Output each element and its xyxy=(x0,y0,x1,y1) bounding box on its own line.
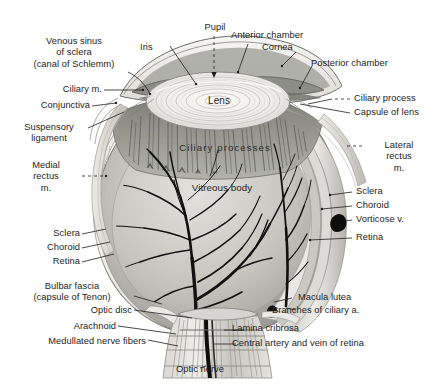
label-bulbar-fascia: Bulbar fascia (capsule of Tenon) xyxy=(10,281,134,304)
label-suspensory-ligament: Suspensory ligament xyxy=(12,122,86,145)
label-venous-sinus-of-sclera: Venous sinus of sclera (canal of Schlemm… xyxy=(14,36,134,70)
label-medial-rectus-muscle: Medial rectus m. xyxy=(14,160,78,194)
label-ciliary-processes: Ciliary processes xyxy=(160,142,290,153)
label-capsule-of-lens: Capsule of lens xyxy=(354,107,419,118)
label-retina-right: Retina xyxy=(356,232,383,243)
label-vorticose-vein: Vorticose v. xyxy=(356,214,404,225)
label-lateral-rectus-muscle: Lateral rectus m. xyxy=(368,140,430,174)
label-macula-lutea: Macula lutea xyxy=(298,292,351,303)
label-posterior-chamber: Posterior chamber xyxy=(311,58,388,69)
label-sclera-left: Sclera xyxy=(20,228,80,239)
label-choroid-right: Choroid xyxy=(356,200,389,211)
label-conjunctiva: Conjunctiva xyxy=(10,100,90,111)
label-sclera-right: Sclera xyxy=(356,186,383,197)
label-choroid-left: Choroid xyxy=(20,242,80,253)
label-ciliary-process: Ciliary process xyxy=(354,93,416,104)
label-optic-nerve: Optic nerve xyxy=(150,364,250,375)
label-medullated-nerve-fibers: Medullated nerve fibers xyxy=(8,336,146,347)
label-iris: Iris xyxy=(140,42,153,53)
label-branches-of-ciliary-artery: Branches of ciliary a. xyxy=(272,305,359,316)
label-vitreous-body: Vitreous body xyxy=(168,182,276,193)
label-lens: Lens xyxy=(190,95,248,106)
label-anterior-chamber: Anterior chamber xyxy=(231,30,303,41)
label-cornea: Cornea xyxy=(262,42,293,53)
label-lamina-cribrosa: Lamina cribrosa xyxy=(232,323,299,334)
label-central-artery-and-vein-of-retina: Central artery and vein of retina xyxy=(232,338,364,349)
label-retina-left: Retina xyxy=(20,256,80,267)
label-ciliary-muscle: Ciliary m. xyxy=(14,84,102,95)
label-optic-disc: Optic disc xyxy=(42,305,132,316)
eye-anatomy-figure: Venous sinus of sclera (canal of Schlemm… xyxy=(0,0,444,392)
label-arachnoid: Arachnoid xyxy=(28,321,116,332)
